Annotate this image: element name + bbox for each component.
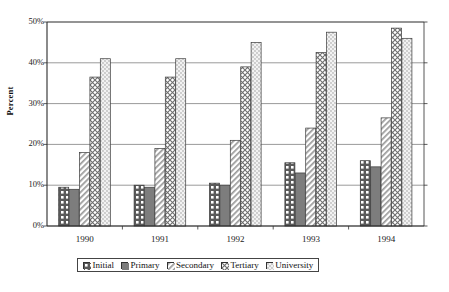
bar [69,189,79,226]
legend-label: Tertiary [231,261,259,270]
plot-area [0,0,449,292]
bar [220,185,230,226]
legend-swatch-icon [83,262,90,269]
bar [285,163,295,226]
x-axis-tick-label: 1992 [206,234,266,244]
legend-swatch-icon [266,262,273,269]
legend-item[interactable]: Secondary [167,261,215,270]
bar [392,28,402,226]
bar [176,59,186,226]
bar [381,118,391,226]
bar [80,153,90,226]
bar [316,53,326,226]
legend-swatch-icon [167,262,174,269]
bar [165,77,175,226]
bars-layer [59,28,412,226]
legend-label: Secondary [176,261,214,270]
x-axis-tick-label: 1993 [281,234,341,244]
legend-item[interactable]: Initial [83,261,114,270]
legend-item[interactable]: Tertiary [221,261,259,270]
bar-chart: Percent 0%10%20%30%40%50% [0,0,449,292]
bar [371,167,381,226]
bar [155,148,165,226]
bar [327,32,337,226]
legend-item[interactable]: Primary [121,261,160,270]
chart-legend: InitialPrimarySecondaryTertiaryUniversit… [77,258,319,272]
bar [402,38,412,226]
bar [241,67,251,226]
bar [144,187,154,226]
legend-item[interactable]: University [266,261,314,270]
legend-label: Primary [131,261,160,270]
bar [230,140,240,226]
legend-swatch-icon [221,262,228,269]
legend-label: Initial [93,261,115,270]
bar [306,128,316,226]
bar [360,161,370,226]
bar [295,173,305,226]
legend-swatch-icon [121,262,128,269]
bar [251,42,261,226]
bar [59,187,69,226]
bar [209,183,219,226]
bar [134,185,144,226]
bar [100,59,110,226]
x-axis-tick-label: 1994 [356,234,416,244]
legend-label: University [275,261,313,270]
bar [90,77,100,226]
x-axis-tick-label: 1991 [130,234,190,244]
x-axis-tick-label: 1990 [55,234,115,244]
